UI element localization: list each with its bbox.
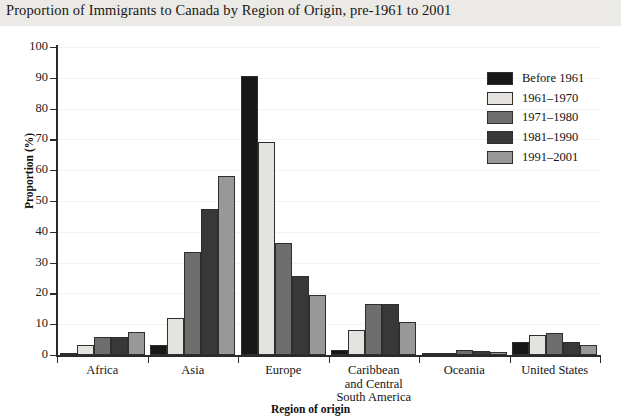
legend-swatch bbox=[487, 72, 513, 85]
x-axis-label-line: Europe bbox=[238, 364, 329, 378]
legend-swatch bbox=[487, 151, 513, 164]
y-axis-tick bbox=[50, 293, 57, 294]
x-axis-tick bbox=[57, 356, 58, 363]
y-axis-tick bbox=[50, 139, 57, 140]
x-axis-label: Europe bbox=[238, 364, 329, 378]
bar-group bbox=[148, 47, 239, 355]
bar-group bbox=[238, 47, 329, 355]
bar[interactable] bbox=[529, 335, 546, 355]
x-axis-label-line: Caribbean bbox=[329, 364, 420, 378]
x-axis-label-line: Asia bbox=[148, 364, 239, 378]
bar[interactable] bbox=[94, 337, 111, 355]
y-axis-label: 30 bbox=[0, 255, 48, 270]
y-axis-label: 10 bbox=[0, 316, 48, 331]
legend-item[interactable]: 1981–1990 bbox=[487, 128, 584, 148]
legend-label: 1961–1970 bbox=[522, 91, 578, 106]
x-axis-tick bbox=[419, 356, 420, 363]
bar[interactable] bbox=[546, 333, 563, 355]
legend-label: 1991–2001 bbox=[522, 150, 578, 165]
y-axis-tick bbox=[50, 324, 57, 325]
bar[interactable] bbox=[365, 304, 382, 355]
bar[interactable] bbox=[184, 252, 201, 355]
bar[interactable] bbox=[150, 345, 167, 355]
bar[interactable] bbox=[128, 332, 145, 355]
y-axis-tick bbox=[50, 170, 57, 171]
x-axis-label: Oceania bbox=[419, 364, 510, 378]
legend-label: 1981–1990 bbox=[522, 130, 578, 145]
x-axis-tick bbox=[238, 356, 239, 363]
legend-label: 1971–1980 bbox=[522, 110, 578, 125]
x-axis-tick bbox=[510, 356, 511, 363]
legend-item[interactable]: 1961–1970 bbox=[487, 89, 584, 109]
legend-item[interactable]: 1971–1980 bbox=[487, 108, 584, 128]
x-axis-label-line: United States bbox=[510, 364, 601, 378]
y-axis-label: 90 bbox=[0, 70, 48, 85]
y-axis-tick bbox=[50, 263, 57, 264]
bar[interactable] bbox=[382, 304, 399, 355]
x-axis-label-line: Africa bbox=[57, 364, 148, 378]
x-axis-title: Region of origin bbox=[0, 403, 621, 415]
legend: Before 19611961–19701971–19801981–199019… bbox=[487, 69, 584, 167]
x-axis-label: Caribbeanand CentralSouth America bbox=[329, 364, 420, 405]
legend-item[interactable]: 1991–2001 bbox=[487, 147, 584, 167]
x-axis-label-line: and Central bbox=[329, 378, 420, 392]
bar[interactable] bbox=[348, 330, 365, 355]
x-axis-tick bbox=[329, 356, 330, 363]
x-axis-label: Asia bbox=[148, 364, 239, 378]
bar[interactable] bbox=[563, 342, 580, 355]
legend-swatch bbox=[487, 92, 513, 105]
bar[interactable] bbox=[512, 342, 529, 355]
y-axis-tick bbox=[50, 201, 57, 202]
y-axis-label: 100 bbox=[0, 39, 48, 54]
legend-label: Before 1961 bbox=[522, 71, 584, 86]
x-axis-label: Africa bbox=[57, 364, 148, 378]
y-axis-label: 20 bbox=[0, 285, 48, 300]
bar[interactable] bbox=[201, 209, 218, 355]
y-axis-tick bbox=[50, 232, 57, 233]
chart-title: Proportion of Immigrants to Canada by Re… bbox=[6, 2, 451, 19]
y-axis-tick bbox=[50, 47, 57, 48]
x-axis-label-line: Oceania bbox=[419, 364, 510, 378]
bar[interactable] bbox=[77, 345, 94, 355]
chart-page: Proportion of Immigrants to Canada by Re… bbox=[0, 0, 621, 419]
bar[interactable] bbox=[241, 76, 258, 355]
bar[interactable] bbox=[167, 318, 184, 355]
bar-group bbox=[57, 47, 148, 355]
x-axis-tick bbox=[600, 356, 601, 363]
x-axis-label: United States bbox=[510, 364, 601, 378]
y-axis-tick bbox=[50, 78, 57, 79]
y-axis-tick bbox=[50, 109, 57, 110]
legend-swatch bbox=[487, 111, 513, 124]
bar[interactable] bbox=[292, 276, 309, 355]
bar[interactable] bbox=[275, 243, 292, 355]
y-axis-title: Proportion (%) bbox=[23, 111, 35, 231]
legend-item[interactable]: Before 1961 bbox=[487, 69, 584, 89]
bar[interactable] bbox=[309, 295, 326, 355]
y-axis-tick bbox=[50, 355, 57, 356]
bar[interactable] bbox=[111, 337, 128, 355]
legend-swatch bbox=[487, 131, 513, 144]
bar[interactable] bbox=[399, 322, 416, 355]
bar[interactable] bbox=[580, 345, 597, 355]
bar-group bbox=[329, 47, 420, 355]
y-axis-label: 0 bbox=[0, 347, 48, 362]
x-axis-tick bbox=[148, 356, 149, 363]
bar[interactable] bbox=[218, 176, 235, 355]
bar[interactable] bbox=[258, 142, 275, 355]
